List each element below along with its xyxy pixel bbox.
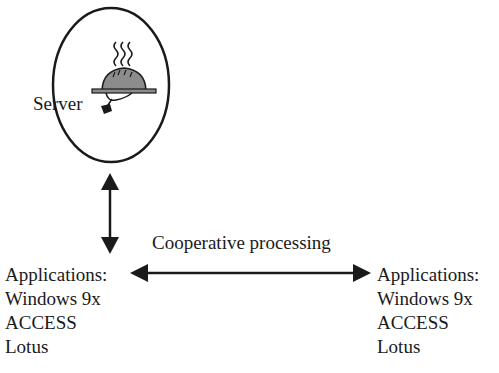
left-app-item: Windows 9x	[5, 287, 107, 311]
right-apps-heading: Applications:	[377, 263, 479, 287]
right-app-item: Lotus	[377, 335, 479, 359]
cooperative-processing-label: Cooperative processing	[152, 231, 331, 255]
server-client-arrow	[101, 173, 119, 254]
right-client-apps: Applications: Windows 9x ACCESS Lotus	[377, 263, 479, 359]
server-label: Server	[33, 92, 83, 116]
right-app-item: Windows 9x	[377, 287, 479, 311]
cooperative-processing-arrow	[130, 264, 371, 282]
left-apps-heading: Applications:	[5, 263, 107, 287]
right-app-item: ACCESS	[377, 311, 479, 335]
left-app-item: Lotus	[5, 335, 107, 359]
left-app-item: ACCESS	[5, 311, 107, 335]
server-cloche-icon	[92, 42, 156, 114]
left-client-apps: Applications: Windows 9x ACCESS Lotus	[5, 263, 107, 359]
